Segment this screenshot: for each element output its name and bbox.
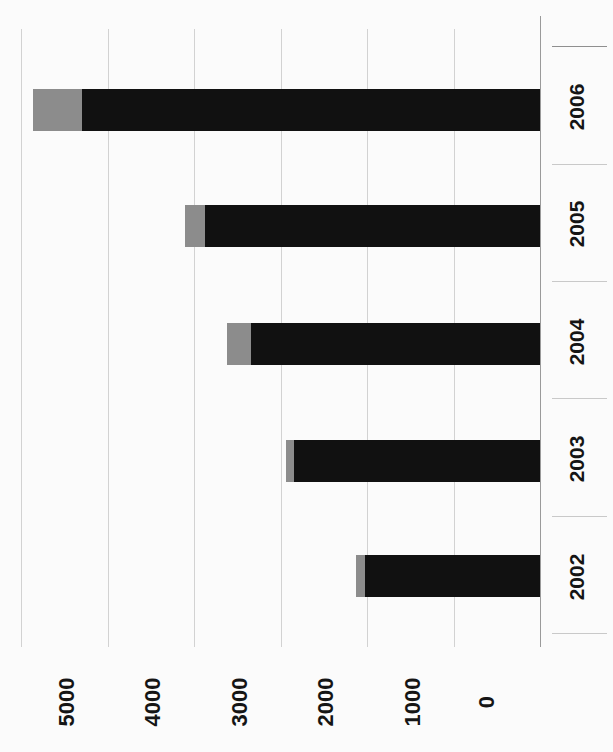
value-axis-labels: 6000 5000 4000 3000 2000 1000 0 <box>0 647 541 752</box>
bar-2006[interactable] <box>0 89 541 131</box>
category-separator-top <box>552 46 607 47</box>
bar-2002-light-segment[interactable] <box>356 555 365 597</box>
category-label-2006: 2006 <box>565 71 589 143</box>
bar-2002[interactable] <box>0 555 541 597</box>
bar-2006-dark-segment[interactable] <box>82 89 541 131</box>
category-separator-1 <box>552 164 607 165</box>
bar-2003-light-segment[interactable] <box>286 440 294 482</box>
bar-2002-dark-segment[interactable] <box>365 555 541 597</box>
category-separator-2 <box>552 281 607 282</box>
plot-area <box>0 29 541 647</box>
category-separator-3 <box>552 398 607 399</box>
category-separator-4 <box>552 516 607 517</box>
value-tick-3000: 3000 <box>227 647 253 752</box>
value-tick-1000: 1000 <box>400 647 426 752</box>
value-tick-2000: 2000 <box>313 647 339 752</box>
value-tick-4000: 4000 <box>140 647 166 752</box>
bar-2005[interactable] <box>0 205 541 247</box>
bar-2005-dark-segment[interactable] <box>205 205 541 247</box>
category-label-2005: 2005 <box>565 188 589 260</box>
bar-2003-dark-segment[interactable] <box>294 440 541 482</box>
bar-2006-light-segment[interactable] <box>33 89 82 131</box>
category-label-2002: 2002 <box>565 541 589 613</box>
category-axis: 2006 2005 2004 2003 2002 <box>541 0 613 752</box>
bar-2004-light-segment[interactable] <box>227 323 251 365</box>
bar-2004-dark-segment[interactable] <box>251 323 541 365</box>
category-label-2004: 2004 <box>565 306 589 378</box>
value-tick-5000: 5000 <box>54 647 80 752</box>
value-tick-0: 0 <box>474 647 500 752</box>
bar-2005-light-segment[interactable] <box>185 205 205 247</box>
category-separator-5 <box>552 633 607 634</box>
category-label-2003: 2003 <box>565 423 589 495</box>
bar-2003[interactable] <box>0 440 541 482</box>
bar-chart: 2006 2005 2004 2003 2002 6000 5000 4000 … <box>0 0 613 752</box>
bar-2004[interactable] <box>0 323 541 365</box>
